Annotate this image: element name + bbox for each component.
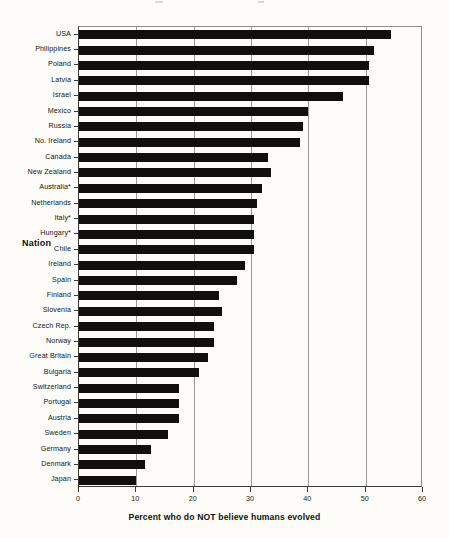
y-tick-mark [74,218,78,219]
category-label: Philippines [35,45,71,53]
category-label: Chile [54,245,71,253]
bar [79,353,208,362]
y-tick-mark [74,402,78,403]
category-label: Great Britain [29,352,71,360]
scan-artifact [155,1,163,3]
bar-row [79,336,421,348]
bar [79,476,136,485]
category-label: Sweden [44,429,71,437]
y-tick-mark [74,80,78,81]
y-tick-mark [74,479,78,480]
y-tick-mark [74,157,78,158]
y-tick-mark [74,126,78,127]
bar [79,445,151,454]
bar-row [79,44,421,56]
x-tick-label: 30 [246,494,254,503]
bar-row [79,474,421,486]
bar [79,322,214,331]
y-tick-mark [74,95,78,96]
bar-row [79,121,421,133]
category-label: New Zealand [28,168,71,176]
x-tick-label: 60 [418,494,426,503]
y-tick-mark [74,111,78,112]
bar-row [79,136,421,148]
bar-row [79,198,421,210]
y-axis-title: Nation [22,238,51,248]
category-label: Japan [51,475,71,483]
bar-row [79,459,421,471]
x-axis-title: Percent who do NOT believe humans evolve… [0,512,449,522]
category-label: Hungary* [40,229,71,237]
plot-area [78,26,422,487]
x-tick-mark [135,487,136,492]
category-label: Israel [53,91,71,99]
bar-chart-figure: USAPhilippinesPolandLatviaIsraelMexicoRu… [0,0,449,538]
bar [79,168,271,177]
x-tick-label: 40 [303,494,311,503]
y-tick-mark [74,418,78,419]
x-tick-label: 50 [361,494,369,503]
y-tick-mark [74,187,78,188]
bar [79,215,254,224]
bar [79,199,257,208]
bar-row [79,413,421,425]
bar [79,184,262,193]
y-tick-mark [74,449,78,450]
category-label: USA [56,30,71,38]
category-label: Bulgaria [44,368,71,376]
bar-row [79,59,421,71]
bar-row [79,367,421,379]
bar [79,414,179,423]
category-label: Denmark [41,460,71,468]
bar-row [79,29,421,41]
bar-row [79,152,421,164]
y-tick-mark [74,464,78,465]
bar [79,153,268,162]
y-tick-mark [74,64,78,65]
y-tick-mark [74,310,78,311]
category-label: Italy* [54,214,71,222]
bar [79,92,343,101]
bar [79,230,254,239]
bar-row [79,321,421,333]
y-tick-mark [74,341,78,342]
y-tick-mark [74,280,78,281]
x-tick-mark [78,487,79,492]
category-label: Norway [46,337,71,345]
category-label: Latvia [51,76,71,84]
bar-row [79,244,421,256]
category-label: Spain [52,276,71,284]
bar-row [79,259,421,271]
bar-row [79,75,421,87]
category-label: No. Ireland [35,137,71,145]
y-tick-mark [74,141,78,142]
bar-row [79,90,421,102]
category-label: Russia [48,122,71,130]
x-tick-label: 20 [189,494,197,503]
bar [79,276,237,285]
x-tick-mark [193,487,194,492]
category-label: Czech Rep. [32,322,71,330]
category-label: Germany [41,445,71,453]
category-label: Canada [45,153,71,161]
bar [79,307,222,316]
bar [79,291,219,300]
y-tick-mark [74,295,78,296]
category-label: Mexico [48,107,71,115]
bar-row [79,444,421,456]
bar-row [79,397,421,409]
bar [79,30,391,39]
y-tick-mark [74,34,78,35]
y-tick-mark [74,387,78,388]
x-tick-mark [422,487,423,492]
y-tick-mark [74,249,78,250]
category-label: Switzerland [33,383,71,391]
x-tick-mark [365,487,366,492]
bar-row [79,305,421,317]
y-tick-mark [74,326,78,327]
bar-row [79,213,421,225]
category-label: Austria [48,414,71,422]
y-tick-mark [74,203,78,204]
bar [79,261,245,270]
category-axis-labels: USAPhilippinesPolandLatviaIsraelMexicoRu… [0,26,75,487]
